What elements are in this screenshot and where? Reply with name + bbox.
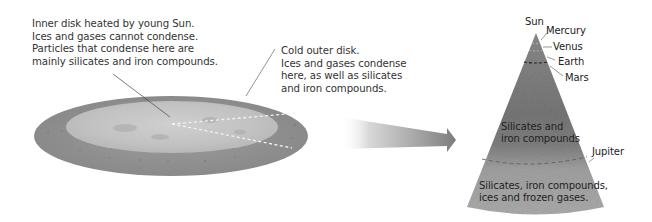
caption-line: Ices and gases condense [281, 58, 406, 71]
sun-label: Sun [525, 16, 544, 28]
outer-region-label: Silicates, iron compounds, ices and froz… [479, 180, 608, 204]
earth-label: Earth [558, 56, 584, 68]
jupiter-label: Jupiter [592, 146, 624, 158]
caption-line: Inner disk heated by young Sun. [32, 18, 218, 31]
mars-label: Mars [565, 72, 589, 84]
solar-nebula-diagram: Inner disk heated by young Sun. Ices and… [0, 0, 652, 222]
outer-disk-caption: Cold outer disk. Ices and gases condense… [281, 45, 406, 95]
region-line: Silicates and [501, 121, 580, 133]
inner-disk-caption: Inner disk heated by young Sun. Ices and… [32, 18, 218, 68]
caption-line: here, as well as silicates [281, 70, 406, 83]
outer-disk-leader-line [246, 49, 275, 96]
inner-disk [66, 101, 278, 153]
caption-line: Cold outer disk. [281, 45, 406, 58]
venus-label: Venus [553, 41, 583, 53]
transition-arrow [340, 117, 456, 152]
region-line: iron compounds [501, 133, 580, 145]
mercury-label: Mercury [546, 25, 586, 37]
caption-line: Particles that condense here are [32, 43, 218, 56]
caption-line: mainly silicates and iron compounds. [32, 56, 218, 69]
region-line: ices and frozen gases. [479, 192, 608, 204]
caption-line: Ices and gases cannot condense. [32, 31, 218, 44]
region-line: Silicates, iron compounds, [479, 180, 608, 192]
inner-region-label: Silicates and iron compounds [501, 121, 580, 145]
caption-line: and iron compounds. [281, 83, 406, 96]
